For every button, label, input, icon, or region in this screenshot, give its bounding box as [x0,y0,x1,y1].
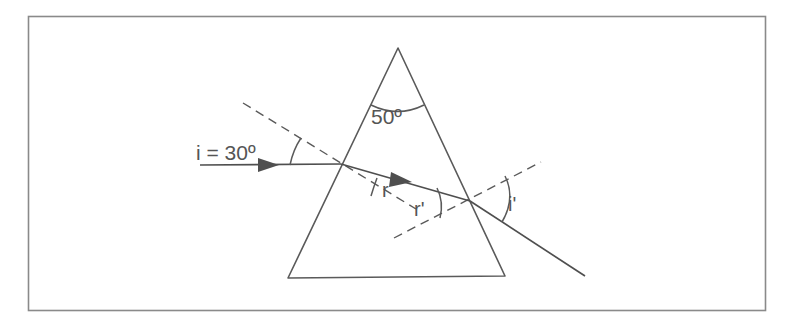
prism-triangle [288,48,505,278]
apex-angle-label: 50º [371,105,402,128]
diagram-canvas: 50º i = 30º r r' i' [0,0,797,334]
angle-arc-incidence [290,138,301,165]
refracted-ray-arrowhead [389,172,412,187]
refraction-angle-label: r [382,179,389,201]
emergence-angle-label: i' [508,193,516,215]
incidence-angle-label: i = 30º [196,141,256,164]
prism-refraction-diagram: 50º i = 30º r r' i' [0,0,797,334]
incident-ray-arrowhead [258,158,279,172]
outer-border [29,17,766,311]
internal-incidence-angle-label: r' [414,198,424,220]
angle-arc-refraction [371,178,377,196]
